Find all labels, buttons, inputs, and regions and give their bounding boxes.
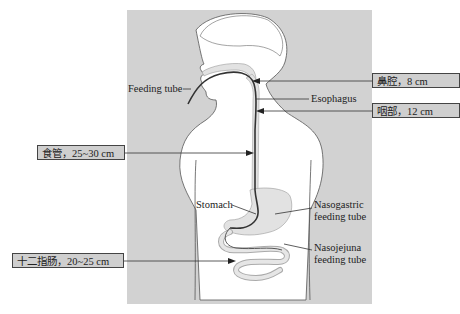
nasogastric-label-line1: Nasogastric (314, 199, 364, 211)
pharynx-callout: 咽部，12 cm (372, 103, 460, 118)
nasojejuna-label-line2: feeding tube (314, 254, 366, 266)
stomach-label: Stomach (196, 199, 233, 211)
duodenum-callout: 十二指肠，20~25 cm (12, 253, 124, 268)
esophagus-label: Esophagus (311, 93, 357, 105)
nasojejuna-label-line1: Nasojejuna (314, 242, 361, 254)
esophagus-callout: 食管，25~30 cm (37, 145, 125, 160)
body-silhouette (180, 14, 323, 300)
nasal-cavity-callout: 鼻腔，8 cm (372, 73, 460, 88)
feeding-tube-label: Feeding tube (128, 83, 183, 95)
nasogastric-label-line2: feeding tube (314, 211, 366, 223)
